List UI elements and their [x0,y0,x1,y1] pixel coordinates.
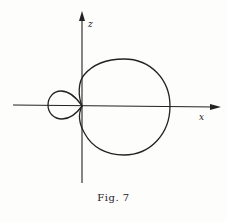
x-axis-arrow-icon [210,104,221,110]
large-lobe-curve [79,59,170,155]
z-axis-label: z [87,19,93,29]
x-axis [13,105,216,107]
figure-diagram: z x [0,0,227,222]
x-axis-label: x [199,112,204,122]
z-axis-arrow-icon [79,11,85,21]
figure-caption: Fig. 7 [0,192,227,203]
